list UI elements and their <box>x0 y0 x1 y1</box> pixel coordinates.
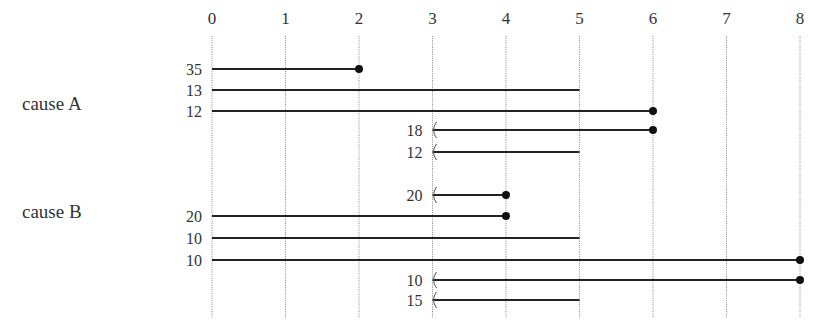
x-tick-label: 1 <box>281 9 290 28</box>
x-axis-ticks: 012345678 <box>208 9 805 28</box>
event-dot-icon <box>502 191 510 199</box>
x-tick-label: 7 <box>722 9 731 28</box>
row-count-label: 20 <box>186 208 202 225</box>
timeline-row: 12 <box>186 103 657 120</box>
x-tick-label: 2 <box>355 9 364 28</box>
data-rows: 3513121812202010101015 <box>186 61 804 309</box>
row-count-label: 10 <box>407 272 423 289</box>
timeline-row: 10 <box>186 230 580 247</box>
row-count-label: 13 <box>186 82 202 99</box>
timeline-row: 10 <box>186 252 804 269</box>
row-count-label: 10 <box>186 230 202 247</box>
row-count-label: 18 <box>407 122 423 139</box>
event-dot-icon <box>796 256 804 264</box>
event-dot-icon <box>796 276 804 284</box>
group-label: cause B <box>22 201 82 222</box>
row-count-label: 12 <box>407 144 423 161</box>
x-tick-label: 4 <box>502 9 511 28</box>
timeline-row: 10 <box>407 272 805 289</box>
groups: cause Acause B <box>22 93 82 222</box>
timeline-row: 13 <box>186 82 580 99</box>
lifetime-chart: 012345678 cause Acause B 351312181220201… <box>0 0 830 332</box>
timeline-row: 20 <box>186 208 510 225</box>
x-tick-label: 0 <box>208 9 217 28</box>
timeline-row: 20 <box>407 187 511 204</box>
row-count-label: 12 <box>186 103 202 120</box>
row-count-label: 15 <box>407 292 423 309</box>
row-count-label: 35 <box>186 61 202 78</box>
row-count-label: 20 <box>407 187 423 204</box>
x-tick-label: 8 <box>796 9 805 28</box>
event-dot-icon <box>355 65 363 73</box>
event-dot-icon <box>649 107 657 115</box>
timeline-row: 35 <box>186 61 363 78</box>
event-dot-icon <box>502 212 510 220</box>
x-tick-label: 3 <box>428 9 437 28</box>
timeline-row: 18 <box>407 122 658 139</box>
group-label: cause A <box>22 93 82 114</box>
x-tick-label: 5 <box>575 9 584 28</box>
vertical-grid <box>212 36 800 318</box>
event-dot-icon <box>649 126 657 134</box>
x-tick-label: 6 <box>649 9 658 28</box>
row-count-label: 10 <box>186 252 202 269</box>
